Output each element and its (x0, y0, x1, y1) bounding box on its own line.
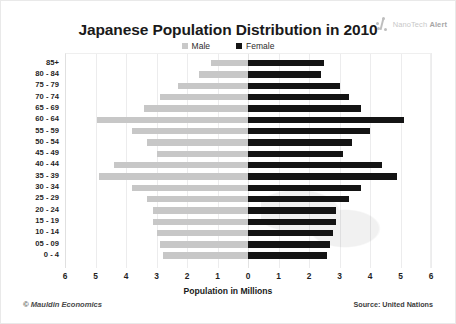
y-axis-tick-label: 15 - 19 (35, 215, 59, 226)
bar-female-25to29 (248, 196, 349, 202)
x-axis-tick-label: 1 (276, 271, 281, 281)
y-axis-tick-label: 75 - 79 (35, 79, 59, 90)
brand-name: NanoTech Alert (393, 20, 447, 29)
legend-swatch-female-icon (236, 43, 242, 49)
legend-item-male: Male (182, 41, 210, 51)
bar-male-20to24 (153, 207, 248, 213)
bar-female-60to64 (248, 117, 404, 123)
bar-female-05to09 (248, 241, 330, 247)
bar-row (65, 217, 431, 228)
bar-female-80to84 (248, 71, 321, 77)
bar-row (65, 137, 431, 148)
chart-legend: Male Female (1, 41, 455, 51)
bar-male-55to59 (132, 128, 248, 134)
x-axis-tick-label: 0 (246, 271, 251, 281)
bar-male-30to34 (132, 185, 248, 191)
x-axis-tick-label: 2 (185, 271, 190, 281)
x-axis-tick-label: 5 (93, 271, 98, 281)
bar-female-15to19 (248, 219, 336, 225)
bar-male-10to14 (157, 230, 249, 236)
brand-name-prefix: NanoTech (393, 20, 430, 29)
y-axis-tick-label: 10 - 14 (35, 226, 59, 237)
bar-row (65, 250, 431, 261)
x-axis-tick-label: 5 (398, 271, 403, 281)
bar-row (65, 228, 431, 239)
y-axis-tick-label: 20 - 24 (35, 204, 59, 215)
copyright-note: © Mauldin Economics (23, 300, 102, 309)
x-axis-tick-label: 4 (124, 271, 129, 281)
legend-swatch-male-icon (182, 43, 188, 49)
y-axis-tick-label: 85+ (46, 57, 59, 68)
gridline (431, 53, 432, 268)
bar-male-05to09 (160, 241, 248, 247)
bar-female-50to54 (248, 139, 352, 145)
bar-male-60to64 (97, 117, 248, 123)
y-axis-tick-label: 0 - 4 (44, 249, 59, 260)
y-axis-tick-label: 70 - 74 (35, 91, 59, 102)
bar-row (65, 81, 431, 92)
bar-female-70to74 (248, 94, 349, 100)
bar-female-75to79 (248, 83, 340, 89)
bar-male-85 (211, 60, 248, 66)
bar-male-25to29 (147, 196, 248, 202)
bar-row (65, 160, 431, 171)
bar-male-0to4 (163, 252, 248, 258)
y-axis-tick-label: 05 - 09 (35, 238, 59, 249)
bar-female-20to24 (248, 207, 336, 213)
x-axis-tick-label: 6 (63, 271, 68, 281)
x-axis-tick-label: 3 (154, 271, 159, 281)
bar-female-85 (248, 60, 324, 66)
x-axis-tick-label: 4 (368, 271, 373, 281)
y-axis-tick-label: 35 - 39 (35, 170, 59, 181)
y-axis-tick-label: 30 - 34 (35, 181, 59, 192)
y-axis-tick-label: 50 - 54 (35, 136, 59, 147)
brand-name-suffix: Alert (429, 20, 447, 29)
bar-row (65, 205, 431, 216)
x-axis-tick-label: 2 (307, 271, 312, 281)
bar-row (65, 92, 431, 103)
bar-row (65, 58, 431, 69)
bar-female-55to59 (248, 128, 370, 134)
bar-female-65to69 (248, 105, 361, 111)
bar-row (65, 149, 431, 160)
bar-male-15to19 (153, 219, 248, 225)
y-axis-tick-label: 55 - 59 (35, 125, 59, 136)
y-axis: 85+80 - 8475 - 7970 - 7465 - 6960 - 6455… (1, 53, 59, 268)
bar-row (65, 126, 431, 137)
bar-female-35to39 (248, 173, 397, 179)
y-axis-tick-label: 60 - 64 (35, 113, 59, 124)
bar-rows (65, 53, 431, 268)
bar-row (65, 103, 431, 114)
chart-page: Japanese Population Distribution in 2010… (0, 0, 456, 324)
plot-area (65, 53, 431, 268)
bar-row (65, 115, 431, 126)
bar-male-35to39 (99, 173, 248, 179)
bar-female-40to44 (248, 162, 382, 168)
y-axis-tick-label: 25 - 29 (35, 192, 59, 203)
y-axis-tick-label: 65 - 69 (35, 102, 59, 113)
bar-row (65, 194, 431, 205)
x-axis-tick-label: 6 (429, 271, 434, 281)
legend-label-male: Male (192, 41, 210, 51)
y-axis-tick-label: 80 - 84 (35, 68, 59, 79)
bar-male-75to79 (178, 83, 248, 89)
bar-female-30to34 (248, 185, 361, 191)
bar-male-40to44 (114, 162, 248, 168)
brand-logo: NanoTech Alert (376, 17, 447, 31)
bar-row (65, 183, 431, 194)
x-axis: 6543210123456 (65, 271, 431, 285)
bar-row (65, 69, 431, 80)
bar-male-45to49 (157, 151, 249, 157)
x-axis-tick-label: 1 (215, 271, 220, 281)
legend-item-female: Female (236, 41, 274, 51)
x-axis-title: Population in Millions (1, 286, 455, 296)
y-axis-tick-label: 40 - 44 (35, 158, 59, 169)
bar-male-80to84 (199, 71, 248, 77)
bar-male-50to54 (147, 139, 248, 145)
bar-female-45to49 (248, 151, 343, 157)
bar-female-10to14 (248, 230, 333, 236)
y-axis-tick-label: 45 - 49 (35, 147, 59, 158)
nanotech-molecule-icon (376, 17, 389, 31)
bar-male-65to69 (144, 105, 248, 111)
bar-row (65, 171, 431, 182)
